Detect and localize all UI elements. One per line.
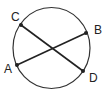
- point-a: [15, 63, 19, 67]
- label-d: D: [89, 71, 98, 85]
- point-b: [84, 31, 88, 35]
- chord-cd: [21, 25, 83, 71]
- chord-ab: [17, 33, 86, 65]
- label-b: B: [94, 23, 102, 37]
- label-c: C: [11, 10, 20, 24]
- circle-chords-diagram: A B C D: [0, 0, 112, 92]
- point-d: [81, 69, 85, 73]
- label-a: A: [4, 62, 12, 76]
